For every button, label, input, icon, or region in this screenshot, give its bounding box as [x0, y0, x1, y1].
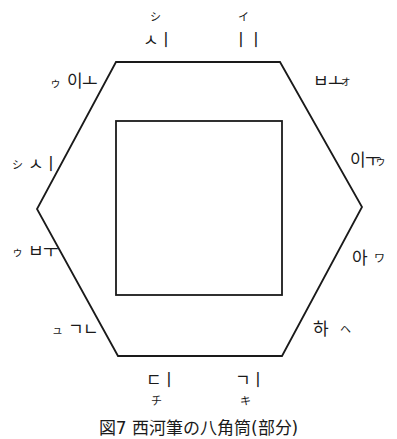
label-bottom-left-side-kana: ュ — [52, 325, 63, 336]
label-bottom-right-jamo: ㄱㅣ — [235, 372, 265, 389]
label-bottom-right-side-kana: ヘ — [340, 324, 351, 335]
label-top-right-kana: イ — [238, 12, 249, 23]
label-bottom-left-side-jamo: ㄱㄴ — [68, 321, 98, 338]
inner-square — [116, 121, 282, 295]
label-mid-left-jamo: ㅅㅣ — [28, 156, 58, 173]
label-bottom-left-jamo: ㄷㅣ — [146, 372, 176, 389]
label-top-right-jamo: ㅣㅣ — [233, 32, 263, 49]
label-upper-right-jamo: ㅂㅗ — [313, 73, 343, 90]
label-mid-left-kana: シ — [12, 160, 23, 171]
label-lower-left-jamo: ㅂㅜ — [28, 243, 58, 260]
label-upper-left-jamo: 이ㅗ — [67, 73, 97, 90]
label-lower-left-kana: ゥ — [12, 247, 23, 258]
label-lower-right-kana: ワ — [374, 253, 385, 264]
label-bottom-right-side-jamo: 하 — [313, 321, 328, 338]
label-top-left-jamo: ㅅㅣ — [143, 32, 173, 49]
label-bottom-left-kana: チ — [151, 396, 162, 407]
label-lower-right-jamo: 아 — [352, 250, 367, 267]
label-upper-left-kana: ゥ — [50, 78, 61, 89]
label-bottom-right-kana: キ — [240, 396, 251, 407]
outer-hexagon — [37, 62, 362, 356]
label-upper-right-kana: ォ — [340, 76, 351, 87]
label-mid-right-kana: ゥ — [375, 156, 386, 167]
label-top-left-kana: シ — [150, 12, 161, 23]
figure-caption: 図7 西河筆の八角筒(部分) — [0, 414, 397, 439]
